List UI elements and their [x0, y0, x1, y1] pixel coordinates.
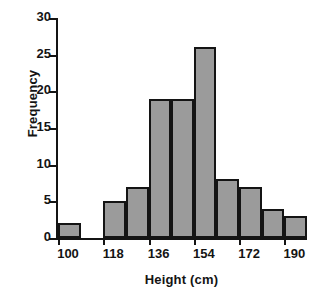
y-tick-label: 5 [44, 192, 51, 207]
bar [262, 209, 285, 238]
bar [58, 223, 81, 238]
x-tick-label: 100 [57, 246, 79, 261]
x-tick-label: 118 [103, 246, 124, 261]
x-tick-mark [149, 240, 151, 245]
y-tick-label: 0 [44, 229, 51, 244]
y-tick-label: 25 [37, 46, 51, 61]
x-tick-label: 136 [148, 246, 170, 261]
y-tick-label: 20 [37, 82, 51, 97]
x-tick-mark [103, 240, 105, 245]
x-tick-label: 172 [238, 246, 260, 261]
x-axis-ticks: 100118136154172190 [56, 240, 307, 264]
x-axis-title: Height (cm) [56, 272, 307, 287]
x-tick-label: 190 [284, 246, 306, 261]
plot-area: 051015202530 [56, 18, 307, 238]
bar [171, 99, 194, 238]
bar [194, 47, 217, 238]
x-tick-mark [58, 240, 60, 245]
histogram-figure: Frequency 051015202530 10011813615417219… [0, 0, 317, 305]
bar [149, 99, 172, 238]
x-tick-mark [239, 240, 241, 245]
bar-series [58, 18, 307, 238]
x-tick-mark [194, 240, 196, 245]
bar [103, 201, 126, 238]
bar [239, 187, 262, 238]
x-tick-mark [284, 240, 286, 245]
bar [216, 179, 239, 238]
y-tick-label: 10 [37, 156, 51, 171]
y-tick-label: 15 [37, 119, 51, 134]
y-tick-label: 30 [37, 9, 51, 24]
bar [284, 216, 307, 238]
x-tick-label: 154 [193, 246, 215, 261]
bar [126, 187, 149, 238]
